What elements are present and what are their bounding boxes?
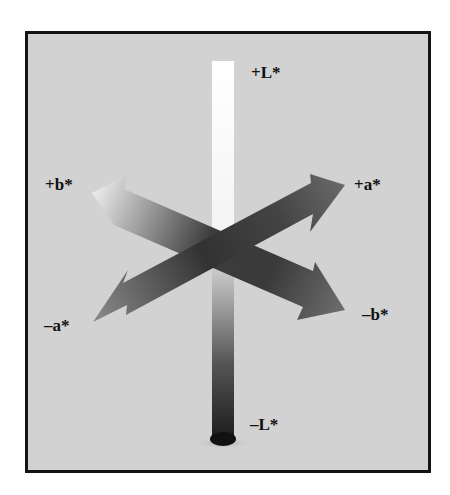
lab-axes-diagram [0, 0, 450, 495]
label-a-plus: +a* [354, 176, 381, 193]
label-a-minus: –a* [44, 317, 70, 334]
label-l-plus: +L* [251, 64, 281, 81]
label-l-minus: –L* [250, 416, 278, 433]
label-b-minus: –b* [362, 306, 388, 323]
label-b-plus: +b* [45, 176, 73, 193]
